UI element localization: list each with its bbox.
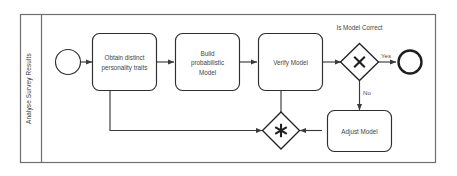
task-obtain-distinct-personality-traits[interactable]: Obtain distinct personality traits (93, 34, 157, 91)
flow-label-yes: Yes (381, 52, 391, 59)
end-event-circle[interactable] (399, 51, 422, 74)
task-obtain-label-line-2: personality traits (102, 64, 148, 72)
exclusive-gateway-is-model-correct[interactable]: Is Model Correct (336, 24, 382, 81)
start-event[interactable] (56, 50, 81, 75)
task-build-label-line-2: probabilistic (191, 59, 224, 67)
task-adjust-model[interactable]: Adjust Model (328, 111, 392, 152)
flow-obtain-loop-to-merge (110, 85, 262, 131)
flow-label-no: No (363, 89, 371, 96)
start-event-circle[interactable] (56, 50, 81, 75)
lane-label: Analyse Survey Results (25, 53, 33, 124)
diagram-svg: Analyse Survey Results (0, 0, 457, 176)
complex-gateway-merge[interactable] (263, 112, 300, 149)
task-build-label-line-1: Build (200, 50, 214, 57)
end-event[interactable] (399, 51, 422, 74)
task-adjust-label: Adjust Model (341, 128, 377, 136)
bpmn-diagram-canvas: Analyse Survey Results (0, 0, 457, 176)
task-verify-model[interactable]: Verify Model (259, 34, 323, 91)
task-verify-label: Verify Model (273, 59, 308, 67)
gateway-caption-is-model-correct: Is Model Correct (336, 24, 382, 31)
task-obtain-rect[interactable] (93, 34, 157, 91)
task-build-probabilistic-model[interactable]: Build probabilistic Model (176, 34, 240, 91)
task-obtain-label-line-1: Obtain distinct (105, 54, 145, 61)
task-build-label-line-3: Model (199, 69, 216, 76)
